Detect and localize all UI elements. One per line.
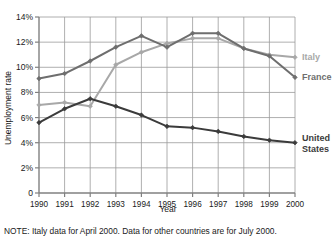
series-labels-layer: ItalyFranceUnitedStates [302, 52, 332, 153]
series-label-france: France [302, 72, 332, 82]
x-tick-label: 2000 [286, 200, 305, 209]
y-tick-label: 12% [16, 37, 33, 47]
y-tick-label: 8% [21, 87, 34, 97]
chart-figure: 02%4%6%8%10%12%14% 199019911992199319941… [0, 0, 336, 244]
x-tick-label: 1999 [260, 200, 279, 209]
y-tick-label: 2% [21, 163, 34, 173]
y-tick-label: 0 [28, 188, 33, 198]
x-tick-label: 1996 [183, 200, 202, 209]
data-point-marker [293, 140, 298, 145]
x-tick-label: 1997 [209, 200, 228, 209]
data-point-marker [267, 138, 272, 143]
series-label-united-states-line2: States [302, 144, 329, 154]
data-point-marker [190, 36, 195, 41]
series-label-united-states: United [302, 133, 330, 143]
data-point-marker [190, 125, 195, 130]
y-tick-label: 4% [21, 138, 34, 148]
data-point-marker [37, 76, 42, 81]
x-tick-label: 1998 [235, 200, 254, 209]
data-point-marker [242, 134, 247, 139]
x-axis-title: Year [159, 204, 176, 214]
chart-svg: 02%4%6%8%10%12%14% 199019911992199319941… [0, 0, 336, 214]
data-point-marker [37, 103, 42, 108]
y-axis-ticks: 02%4%6%8%10%12%14% [16, 12, 39, 198]
chart-note: NOTE: Italy data for April 2000. Data fo… [4, 226, 334, 236]
y-tick-label: 6% [21, 113, 34, 123]
data-point-marker [216, 129, 221, 134]
note-text: NOTE: Italy data for April 2000. Data fo… [4, 226, 277, 236]
y-tick-label: 14% [16, 12, 33, 22]
x-tick-label: 1992 [81, 200, 100, 209]
x-tick-label: 1993 [107, 200, 126, 209]
x-tick-label: 1994 [132, 200, 151, 209]
x-tick-label: 1991 [55, 200, 74, 209]
x-tick-label: 1990 [30, 200, 49, 209]
y-axis-title: Unemployment rate [3, 71, 13, 145]
series-label-italy: Italy [302, 52, 320, 62]
y-tick-label: 10% [16, 62, 33, 72]
line-chart: 02%4%6%8%10%12%14% 199019911992199319941… [0, 0, 336, 214]
data-point-marker [293, 55, 298, 60]
data-point-marker [62, 100, 67, 105]
